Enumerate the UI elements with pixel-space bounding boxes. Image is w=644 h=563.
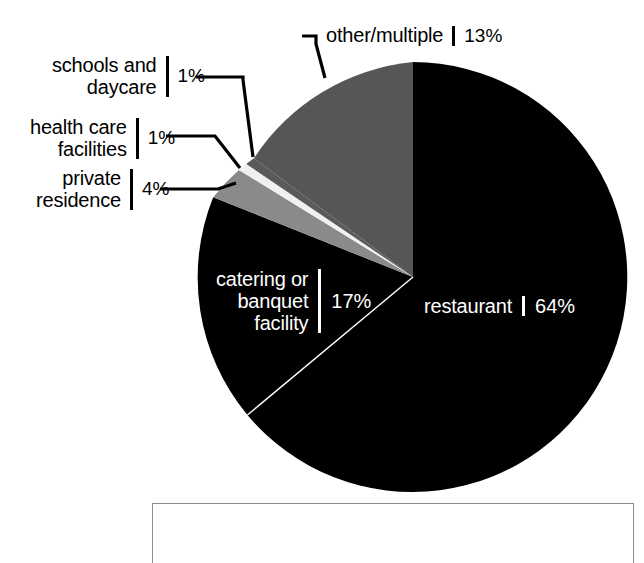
callout-private-residence-value: 4% bbox=[142, 179, 169, 200]
callout-other-multiple: other/multiple 13% bbox=[326, 25, 502, 47]
callout-private-residence-name: private residence bbox=[36, 168, 121, 211]
inlabel-restaurant-value: 64% bbox=[535, 295, 575, 317]
leader-line-other-multiple bbox=[302, 36, 325, 78]
inlabel-catering-or-banquet-facility: catering or banquet facility 17% bbox=[216, 268, 371, 334]
callout-separator bbox=[136, 118, 139, 159]
leader-line-private-residence bbox=[160, 183, 236, 189]
callout-separator bbox=[452, 26, 455, 46]
inlabel-restaurant: restaurant 64% bbox=[424, 295, 575, 317]
callout-health-care-facilities-value: 1% bbox=[148, 128, 175, 149]
callout-health-care-facilities-name: health care facilities bbox=[30, 117, 127, 160]
callout-health-care-facilities: health care facilities 1% bbox=[30, 117, 175, 160]
inlabel-restaurant-name: restaurant bbox=[424, 295, 512, 317]
inlabel-separator bbox=[522, 296, 525, 316]
leader-line-health-care-facilities bbox=[166, 136, 240, 168]
callout-schools-and-daycare-name: schools and daycare bbox=[52, 55, 157, 98]
callout-schools-and-daycare-value: 1% bbox=[178, 66, 205, 87]
bottom-panel bbox=[152, 503, 634, 563]
callout-private-residence: private residence 4% bbox=[36, 168, 169, 211]
callout-other-multiple-value: 13% bbox=[464, 26, 502, 47]
callout-separator bbox=[166, 56, 169, 97]
callout-other-multiple-name: other/multiple bbox=[326, 25, 443, 47]
inlabel-catering-or-banquet-facility-value: 17% bbox=[331, 290, 371, 312]
callout-schools-and-daycare: schools and daycare 1% bbox=[52, 55, 205, 98]
inlabel-separator bbox=[318, 269, 321, 333]
callout-separator bbox=[130, 169, 133, 210]
inlabel-catering-or-banquet-facility-name: catering or banquet facility bbox=[216, 268, 308, 334]
